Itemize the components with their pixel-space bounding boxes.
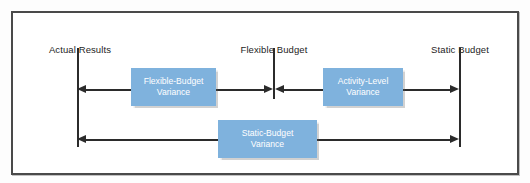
static-budget-variance-arrowhead-right: [450, 135, 459, 143]
flexible-budget-variance-arrowhead-right: [264, 85, 273, 93]
diagram-frame: Actual Results Flexible Budget Static Bu…: [11, 11, 519, 175]
variance-box-flexible-budget-line2: Variance: [157, 87, 190, 98]
activity-level-variance-shaft-left: [284, 89, 324, 91]
variance-box-static-budget-line2: Variance: [251, 139, 284, 150]
activity-level-variance-shaft-right: [402, 89, 452, 91]
variance-box-static-budget: Static-Budget Variance: [218, 120, 317, 158]
activity-level-variance-arrowhead-right: [450, 85, 459, 93]
flexible-budget-variance-shaft-right: [215, 89, 264, 91]
variance-box-flexible-budget: Flexible-Budget Variance: [131, 68, 216, 106]
static-budget-variance-shaft-right: [316, 139, 452, 141]
variance-box-static-budget-line1: Static-Budget: [242, 128, 294, 139]
static-budget-variance-arrowhead-left: [77, 135, 86, 143]
variance-box-flexible-budget-line1: Flexible-Budget: [144, 76, 204, 87]
variance-box-activity-level-line2: Variance: [346, 87, 379, 98]
column-label-actual-results: Actual Results: [49, 44, 111, 55]
flexible-budget-variance-arrowhead-left: [77, 85, 86, 93]
diagram-canvas: Actual Results Flexible Budget Static Bu…: [0, 0, 530, 183]
reference-line-static-budget: [459, 48, 461, 147]
variance-box-activity-level-line1: Activity-Level: [338, 76, 389, 87]
static-budget-variance-shaft-left: [83, 139, 219, 141]
reference-line-actual-results: [77, 48, 79, 147]
activity-level-variance-arrowhead-left: [275, 85, 284, 93]
flexible-budget-variance-shaft-left: [83, 89, 133, 91]
variance-box-activity-level: Activity-Level Variance: [323, 68, 403, 106]
